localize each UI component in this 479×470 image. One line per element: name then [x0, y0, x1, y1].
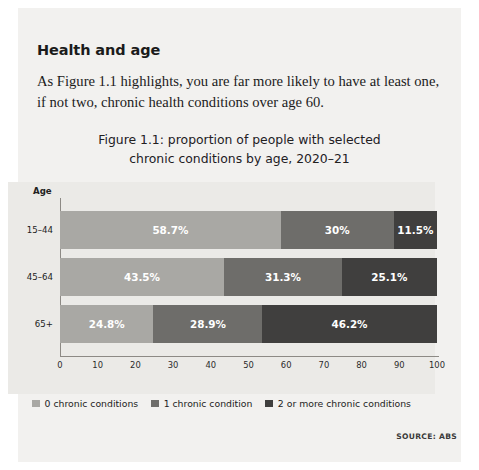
- chart-title-line-1: Figure 1.1: proportion of people with se…: [98, 132, 380, 147]
- x-axis-tick-label: 90: [394, 360, 405, 370]
- bar-segment: 43.5%: [60, 258, 224, 296]
- bar-row: 15–4458.7%30%11.5%: [60, 211, 437, 249]
- x-axis-tick-label: 50: [243, 360, 254, 370]
- source-note: SOURCE: ABS: [396, 432, 457, 441]
- bar-segment: 25.1%: [342, 258, 437, 296]
- legend-item: 1 chronic condition: [151, 398, 252, 409]
- y-axis-tick-label: 45–64: [27, 258, 60, 296]
- chart-title-line-2: chronic conditions by age, 2020–21: [129, 151, 349, 166]
- x-axis-ticks: 0102030405060708090100: [60, 360, 437, 374]
- bar-value-label: 58.7%: [152, 224, 188, 236]
- x-axis-line: [60, 356, 439, 357]
- bar-segment: 11.5%: [394, 211, 437, 249]
- chart-legend: 0 chronic conditions1 chronic condition2…: [8, 398, 435, 409]
- legend-label: 2 or more chronic conditions: [278, 398, 411, 409]
- y-axis-tick-label: 65+: [35, 305, 60, 343]
- x-axis-tick-label: 60: [281, 360, 292, 370]
- bar-value-label: 28.9%: [190, 318, 226, 330]
- bar-segment: 24.8%: [60, 305, 153, 343]
- bar-value-label: 46.2%: [331, 318, 367, 330]
- chart-plot-area: 15–4458.7%30%11.5%45–6443.5%31.3%25.1%65…: [60, 200, 437, 355]
- page-title: Health and age: [37, 42, 160, 58]
- y-axis-tick-label: 15–44: [27, 211, 60, 249]
- bar-segment: 31.3%: [224, 258, 342, 296]
- bar-row: 65+24.8%28.9%46.2%: [60, 305, 437, 343]
- legend-item: 0 chronic conditions: [32, 398, 138, 409]
- x-axis-tick-label: 100: [429, 360, 445, 370]
- bar-value-label: 30%: [325, 224, 350, 236]
- bar-value-label: 24.8%: [89, 318, 125, 330]
- bar-value-label: 11.5%: [397, 224, 433, 236]
- y-axis-title: Age: [33, 186, 52, 196]
- bar-segment: 30%: [281, 211, 394, 249]
- bar-value-label: 25.1%: [371, 271, 407, 283]
- legend-swatch-icon: [151, 400, 159, 408]
- legend-label: 1 chronic condition: [164, 398, 253, 409]
- x-axis-tick-label: 40: [205, 360, 216, 370]
- x-axis-tick-label: 0: [57, 360, 62, 370]
- legend-swatch-icon: [265, 400, 273, 408]
- bar-segment: 58.7%: [60, 211, 281, 249]
- bar-value-label: 31.3%: [265, 271, 301, 283]
- x-axis-tick-label: 30: [168, 360, 179, 370]
- x-axis-tick-label: 80: [356, 360, 367, 370]
- body-paragraph: As Figure 1.1 highlights, you are far mo…: [37, 71, 447, 113]
- bar-segment: 28.9%: [153, 305, 262, 343]
- chart-title: Figure 1.1: proportion of people with se…: [37, 130, 442, 168]
- bar-segment: 46.2%: [262, 305, 436, 343]
- x-axis-tick-label: 70: [319, 360, 330, 370]
- x-axis-tick-label: 10: [92, 360, 103, 370]
- bar-value-label: 43.5%: [124, 271, 160, 283]
- legend-label: 0 chronic conditions: [45, 398, 139, 409]
- x-axis-tick-label: 20: [130, 360, 141, 370]
- legend-swatch-icon: [32, 400, 40, 408]
- legend-item: 2 or more chronic conditions: [265, 398, 411, 409]
- bar-row: 45–6443.5%31.3%25.1%: [60, 258, 437, 296]
